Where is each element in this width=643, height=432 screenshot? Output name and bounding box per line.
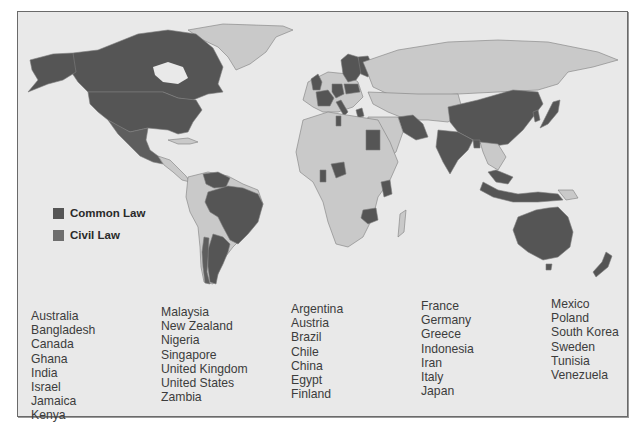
region-argentina [208, 234, 230, 284]
region-malaysia [488, 170, 513, 184]
region-poland [344, 84, 360, 94]
country-name: Indonesia [421, 342, 474, 356]
country-name: France [421, 299, 474, 313]
country-name: Australia [31, 309, 95, 323]
country-name: Malaysia [161, 305, 248, 319]
country-name: Venezuela [551, 368, 619, 382]
country-name: Austria [291, 316, 343, 330]
country-name: Sweden [551, 340, 619, 354]
country-name: Jamaica [31, 394, 95, 408]
legend-item-civil-law: Civil Law [53, 224, 145, 246]
country-column-3: Argentina Austria Brazil Chile China Egy… [291, 302, 343, 401]
country-name: Argentina [291, 302, 343, 316]
country-name: Greece [421, 327, 474, 341]
country-name: Germany [421, 313, 474, 327]
country-name: United Kingdom [161, 362, 248, 376]
country-name: Canada [31, 337, 95, 351]
region-tasmania [546, 264, 552, 270]
region-madagascar [398, 210, 406, 237]
country-name: Kenya [31, 408, 95, 422]
region-ghana [320, 170, 326, 182]
region-bangladesh [473, 140, 480, 148]
country-name: Israel [31, 380, 95, 394]
country-name: United States [161, 376, 248, 390]
region-canada [68, 30, 223, 100]
legend-swatch-civil-law [53, 230, 64, 241]
region-se-asia [480, 142, 506, 170]
country-name: Japan [421, 384, 474, 398]
country-name: Bangladesh [31, 323, 95, 337]
country-name: Ghana [31, 352, 95, 366]
country-name: Nigeria [161, 333, 248, 347]
world-map-svg [18, 12, 627, 297]
region-kenya [381, 180, 392, 197]
region-new-zealand [593, 252, 612, 277]
country-column-1: Australia Bangladesh Canada Ghana India … [31, 309, 95, 423]
map-legend: Common Law Civil Law [53, 202, 145, 246]
country-name: China [291, 359, 343, 373]
country-column-5: Mexico Poland South Korea Sweden Tunisia… [551, 297, 619, 382]
legend-label-common-law: Common Law [70, 207, 145, 219]
country-name: Egypt [291, 373, 343, 387]
region-central-america [158, 156, 190, 182]
country-name: Mexico [551, 297, 619, 311]
country-name: Chile [291, 345, 343, 359]
region-caribbean [168, 138, 198, 144]
country-name: Brazil [291, 330, 343, 344]
region-russia [363, 40, 618, 97]
country-name: South Korea [551, 325, 619, 339]
country-column-2: Malaysia New Zealand Nigeria Singapore U… [161, 305, 248, 404]
country-name: New Zealand [161, 319, 248, 333]
country-name: Tunisia [551, 354, 619, 368]
region-australia [513, 207, 573, 260]
country-column-4: France Germany Greece Indonesia Iran Ita… [421, 299, 474, 398]
country-name: Iran [421, 356, 474, 370]
country-name: Poland [551, 311, 619, 325]
map-figure-frame: Common Law Civil Law Australia Banglades… [17, 11, 628, 417]
country-name: India [31, 366, 95, 380]
country-name: Singapore [161, 348, 248, 362]
region-egypt [366, 130, 380, 150]
legend-swatch-common-law [53, 208, 64, 219]
region-alaska [28, 53, 76, 92]
world-map [18, 12, 627, 297]
country-name: Italy [421, 370, 474, 384]
legend-label-civil-law: Civil Law [70, 229, 120, 241]
region-indonesia [480, 182, 563, 202]
region-africa [296, 112, 398, 247]
country-name: Finland [291, 387, 343, 401]
country-lists: Australia Bangladesh Canada Ghana India … [18, 297, 627, 416]
region-tunisia [336, 116, 341, 126]
legend-item-common-law: Common Law [53, 202, 145, 224]
country-name: Zambia [161, 390, 248, 404]
region-south-korea [533, 110, 540, 122]
